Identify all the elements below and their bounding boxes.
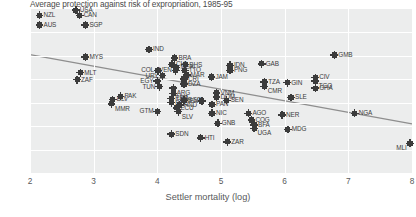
gridline-vertical xyxy=(94,9,95,173)
data-point-marker xyxy=(288,95,293,100)
scatter-chart: Average protection against risk of expro… xyxy=(0,0,416,217)
data-point-marker xyxy=(407,141,412,146)
data-point-marker xyxy=(109,101,114,106)
data-point-label: NZL xyxy=(44,12,56,18)
plot-area: NZLUSACANAUSSGPINDMYSMLTZAFBRACHLBHSMEXC… xyxy=(30,9,412,173)
x-axis-tick: 6 xyxy=(282,176,287,186)
gridline-vertical xyxy=(157,9,158,173)
data-point-label: MLI xyxy=(396,145,406,151)
data-point-label: PAN xyxy=(216,101,228,107)
data-point-label: ZAF xyxy=(81,77,93,83)
data-point-marker xyxy=(209,102,214,107)
data-point-label: IND xyxy=(153,46,164,52)
data-point-marker xyxy=(157,84,162,89)
data-point-marker xyxy=(246,111,251,116)
data-point-label: ECU xyxy=(180,105,193,111)
data-point-label: NER xyxy=(286,112,299,118)
data-point-marker xyxy=(313,79,318,84)
data-point-marker xyxy=(37,22,42,27)
data-point-label: GIN xyxy=(291,80,302,86)
data-point-marker xyxy=(215,121,220,126)
x-axis-tick: 8 xyxy=(410,176,415,186)
data-point-marker xyxy=(252,126,257,131)
data-point-label: GNB xyxy=(222,120,235,126)
data-point-label: BFA xyxy=(258,122,270,128)
data-point-marker xyxy=(313,86,318,91)
data-point-label: GHA xyxy=(319,85,332,91)
data-point-marker xyxy=(83,22,88,27)
data-point-label: UGA xyxy=(258,130,271,136)
data-point-marker xyxy=(160,73,165,78)
data-point-label: NIC xyxy=(216,110,227,116)
data-point-label: JAM xyxy=(215,74,227,80)
data-point-label: PNG xyxy=(234,67,247,73)
data-point-marker xyxy=(209,74,214,79)
data-point-marker xyxy=(225,139,230,144)
data-point-label: GMB xyxy=(338,52,352,58)
data-point-label: SGP xyxy=(89,22,102,28)
data-point-label: TUN xyxy=(143,84,156,90)
data-point-label: TZA xyxy=(268,79,280,85)
data-point-label: MDG xyxy=(292,126,306,132)
chart-title: Average protection against risk of expro… xyxy=(30,0,233,9)
data-point-marker xyxy=(332,52,337,57)
x-axis-tick: 2 xyxy=(28,176,33,186)
data-point-marker xyxy=(173,68,178,73)
data-point-marker xyxy=(227,68,232,73)
gridline-vertical xyxy=(285,9,286,173)
data-point-marker xyxy=(155,109,160,114)
data-point-label: ZAR xyxy=(231,139,243,145)
gridline-vertical xyxy=(412,9,413,173)
data-point-marker xyxy=(75,77,80,82)
data-point-label: AUS xyxy=(44,22,57,28)
data-point-marker xyxy=(352,111,357,116)
gridline-horizontal xyxy=(30,32,412,33)
data-point-marker xyxy=(83,54,88,59)
data-point-marker xyxy=(285,127,290,132)
data-point-marker xyxy=(198,135,203,140)
data-point-label: MMR xyxy=(115,106,130,112)
data-point-label: CAN xyxy=(84,12,97,18)
data-point-label: CMR xyxy=(268,88,282,94)
data-point-marker xyxy=(209,111,214,116)
gridline-horizontal xyxy=(30,150,412,151)
data-point-label: SLE xyxy=(295,94,307,100)
data-point-label: SEN xyxy=(231,97,244,103)
data-point-label: HTI xyxy=(205,135,215,141)
data-point-marker xyxy=(285,80,290,85)
data-point-marker xyxy=(176,109,181,114)
data-point-label: MLT xyxy=(84,70,96,76)
data-point-marker xyxy=(77,13,82,18)
data-point-marker xyxy=(181,81,186,86)
data-point-label: CIV xyxy=(319,74,329,80)
x-axis-label: Settler mortality (log) xyxy=(0,192,416,202)
x-axis-tick: 7 xyxy=(346,176,351,186)
data-point-label: MYS xyxy=(89,54,102,60)
data-point-marker xyxy=(262,84,267,89)
gridline-vertical xyxy=(30,9,31,173)
data-point-marker xyxy=(169,132,174,137)
data-point-marker xyxy=(78,70,83,75)
data-point-label: GAB xyxy=(266,61,279,67)
x-axis-tick: 3 xyxy=(91,176,96,186)
data-point-marker xyxy=(37,13,42,18)
data-point-marker xyxy=(214,94,219,99)
data-point-label: SDN xyxy=(175,131,188,137)
data-point-marker xyxy=(280,112,285,117)
data-point-marker xyxy=(259,61,264,66)
data-point-label: BLV xyxy=(117,96,128,102)
x-axis-tick: 4 xyxy=(155,176,160,186)
data-point-marker xyxy=(146,47,151,52)
data-point-label: NGA xyxy=(359,110,372,116)
gridline-vertical xyxy=(348,9,349,173)
data-point-label: DZA xyxy=(188,81,200,87)
x-axis-tick: 5 xyxy=(219,176,224,186)
data-point-label: GTM xyxy=(140,108,154,114)
data-point-label: SLV xyxy=(182,114,193,120)
